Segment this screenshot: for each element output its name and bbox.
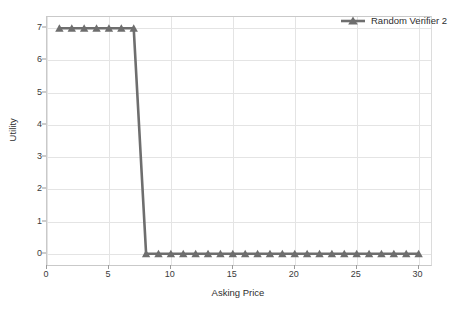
legend-marker-icon [340,15,366,27]
plot-area [46,16,432,266]
x-tick-mark [356,265,357,269]
y-tick-mark [42,27,46,28]
y-axis-title: Utility [8,100,18,160]
x-tick-mark [46,265,47,269]
y-tick-label-2: 2 [12,184,42,193]
legend[interactable]: Random Verifier 2 [340,15,447,27]
x-tick-label-10: 10 [150,270,190,279]
x-tick-mark [108,265,109,269]
x-tick-label-0: 0 [26,270,66,279]
legend-label: Random Verifier 2 [371,16,447,26]
x-tick-label-25: 25 [336,270,376,279]
x-tick-mark [418,265,419,269]
x-tick-label-15: 15 [212,270,252,279]
x-tick-label-5: 5 [88,270,128,279]
y-tick-label-7: 7 [12,23,42,32]
x-tick-label-30: 30 [398,270,438,279]
series-line-0 [59,28,418,253]
x-tick-mark [170,265,171,269]
x-tick-label-20: 20 [274,270,314,279]
chart-figure: 01234567 051015202530 Asking Price Utili… [0,0,454,315]
x-tick-mark [232,265,233,269]
x-axis-ticks: 051015202530 [46,270,430,284]
y-tick-label-1: 1 [12,216,42,225]
y-tick-label-6: 6 [12,55,42,64]
x-axis-title: Asking Price [46,288,430,298]
y-tick-mark [42,123,46,124]
series-layer [47,17,431,265]
y-tick-label-5: 5 [12,87,42,96]
y-tick-mark [42,188,46,189]
y-tick-label-0: 0 [12,248,42,257]
y-tick-mark [42,252,46,253]
y-tick-mark [42,220,46,221]
y-tick-mark [42,59,46,60]
y-tick-mark [42,156,46,157]
y-tick-mark [42,91,46,92]
x-tick-mark [294,265,295,269]
